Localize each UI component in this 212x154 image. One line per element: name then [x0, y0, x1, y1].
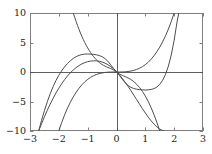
x-tick-label-6: 3: [200, 133, 206, 144]
y-tick-label-1: −5: [12, 96, 26, 107]
y-tick-label-0: −10: [6, 125, 26, 136]
polynomial-curves-plot: −3−2−10123 −10−50510: [0, 0, 212, 154]
y-tick-label-2: 0: [20, 66, 26, 77]
x-tick-label-3: 0: [113, 133, 119, 144]
x-tick-label-5: 2: [171, 133, 177, 144]
y-tick-label-4: 10: [14, 7, 26, 18]
x-tick-label-4: 1: [142, 133, 148, 144]
y-tick-labels: −10−50510: [6, 7, 26, 136]
x-tick-label-2: −1: [81, 133, 95, 144]
y-tick-label-3: 5: [20, 37, 26, 48]
x-tick-labels: −3−2−10123: [23, 133, 206, 144]
chart-figure: −3−2−10123 −10−50510: [0, 0, 212, 154]
x-tick-label-1: −2: [52, 133, 66, 144]
